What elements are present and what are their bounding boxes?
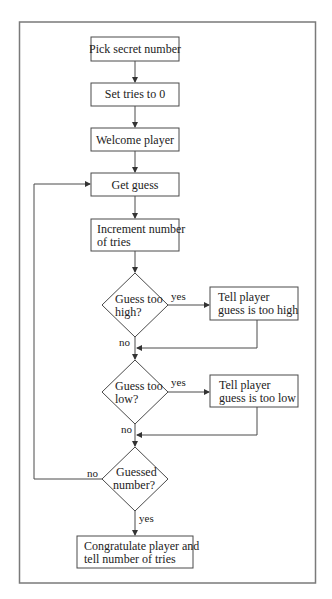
decision-guess-too-high: Guess too high? <box>102 273 168 337</box>
edge-label-no: no <box>121 423 133 435</box>
node-label: Guessed <box>116 465 157 479</box>
arrow-tell-high-return <box>137 320 257 348</box>
node-tell-too-high: Tell player guess is too high <box>210 287 298 320</box>
node-label: tell number of tries <box>84 552 176 566</box>
edge-label-no: no <box>87 467 99 479</box>
node-label: low? <box>115 392 138 406</box>
edge-label-no: no <box>119 336 131 348</box>
edge-label-yes: yes <box>171 290 186 302</box>
node-label: Pick secret number <box>89 42 181 56</box>
node-label: Guess too <box>115 379 163 393</box>
node-label: Congratulate player and <box>84 539 199 553</box>
node-label: guess is too high <box>218 303 298 317</box>
edge-label-yes: yes <box>139 512 154 524</box>
node-label: Tell player <box>219 378 270 392</box>
node-label: high? <box>115 305 142 319</box>
decision-guessed-number: Guessed number? <box>102 447 168 511</box>
edge-label-yes: yes <box>171 376 186 388</box>
node-welcome-player: Welcome player <box>91 128 179 151</box>
node-congratulate-player: Congratulate player and tell number of t… <box>77 536 199 568</box>
node-label: number? <box>113 478 155 492</box>
node-label: Get guess <box>112 178 159 192</box>
flowchart: Pick secret number Set tries to 0 Welcom… <box>0 0 332 599</box>
node-tell-too-low: Tell player guess is too low <box>210 375 298 407</box>
node-label: guess is too low <box>219 391 296 405</box>
node-set-tries: Set tries to 0 <box>91 83 179 106</box>
arrow-tell-low-return <box>137 407 257 435</box>
node-label: Guess too <box>115 292 163 306</box>
node-label: Welcome player <box>96 133 174 147</box>
decision-guess-too-low: Guess too low? <box>102 360 168 424</box>
node-label: Increment number <box>97 222 185 236</box>
node-label: Tell player <box>218 290 269 304</box>
node-pick-secret-number: Pick secret number <box>89 37 181 61</box>
node-label: of tries <box>97 235 131 249</box>
node-increment-tries: Increment number of tries <box>91 219 185 251</box>
node-get-guess: Get guess <box>91 173 179 196</box>
node-label: Set tries to 0 <box>105 87 165 101</box>
